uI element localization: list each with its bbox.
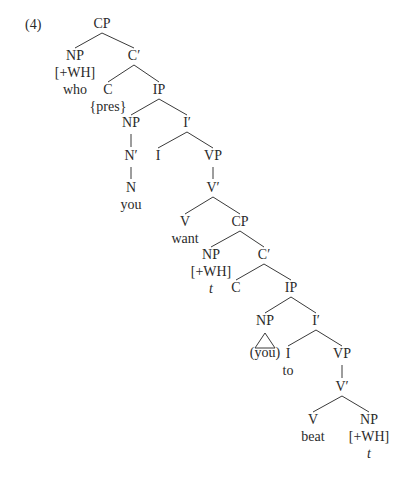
tree-node-np4: NP(you): [250, 313, 281, 361]
branch-ip2-np4: [265, 297, 291, 313]
tree-node-v2: Vbeat: [301, 412, 324, 444]
tree-node-np3: NP[+WH]t: [191, 247, 232, 296]
branch-cbar2-c2: [236, 264, 264, 280]
branch-cp1-np1: [75, 33, 102, 48]
branch-ibar1-vp1: [187, 132, 213, 148]
node-category-label: I: [286, 346, 291, 361]
branch-cbar2-ip2: [264, 264, 291, 280]
tree-node-vbar1: V′: [206, 180, 219, 195]
tree-node-cp1: CP: [93, 16, 110, 31]
branch-ibar1-i1: [158, 132, 187, 148]
node-sub-label: (you): [250, 345, 281, 361]
branch-ibar2-vp2: [316, 330, 342, 346]
node-sub-label: beat: [301, 429, 324, 444]
branch-ip1-ibar1: [159, 99, 187, 115]
tree-node-ip1: IP: [153, 82, 166, 97]
node-category-label: V: [308, 412, 318, 427]
tree-node-cp2: CP: [231, 214, 248, 229]
branch-cbar1-c1: [108, 65, 134, 82]
tree-node-ip2: IP: [285, 280, 298, 295]
tree-node-i2: Ito: [283, 346, 294, 378]
node-category-label: V′: [335, 379, 348, 394]
branch-ip1-np2: [131, 99, 159, 115]
node-category-label: N: [126, 180, 136, 195]
tree-node-ibar1: I′: [183, 115, 191, 130]
node-sub-label: [+WH]: [55, 65, 96, 80]
node-category-label: I′: [312, 313, 320, 328]
node-category-label: NP: [360, 412, 378, 427]
node-category-label: C: [103, 82, 112, 97]
node-category-label: NP: [256, 313, 274, 328]
node-category-label: C′: [258, 247, 270, 262]
example-number: (4): [25, 17, 42, 33]
node-category-label: CP: [231, 214, 248, 229]
node-category-label: VP: [204, 148, 222, 163]
branch-ibar2-i2: [288, 330, 316, 346]
tree-node-nbar1: N′: [124, 148, 137, 163]
node-sub-label: who: [63, 82, 87, 97]
trace-label: t: [209, 281, 214, 296]
node-category-label: I: [156, 148, 161, 163]
tree-node-vp1: VP: [204, 148, 222, 163]
tree-node-v1: Vwant: [171, 214, 198, 246]
tree-node-np1: NP[+WH]who: [55, 48, 96, 97]
trace-label: t: [367, 446, 372, 461]
node-sub-label: [+WH]: [191, 264, 232, 279]
branch-cp2-np3: [211, 231, 240, 247]
node-category-label: NP: [202, 247, 220, 262]
syntax-tree-diagram: (4) CPNP[+WH]whoC′C{pres}IPNPI′N′IVPNyou…: [0, 0, 405, 491]
node-sub-label: {pres}: [90, 99, 127, 114]
node-category-label: N′: [124, 148, 137, 163]
node-category-label: NP: [122, 115, 140, 130]
node-category-label: NP: [66, 48, 84, 63]
tree-node-cbar1: C′: [128, 48, 140, 63]
tree-node-np2: NP: [122, 115, 140, 130]
branch-vbar2-np5: [342, 396, 369, 412]
node-sub-label: to: [283, 363, 294, 378]
tree-node-np5: NP[+WH]t: [349, 412, 390, 461]
branch-vbar1-v1: [185, 197, 213, 214]
node-category-label: V: [180, 214, 190, 229]
node-category-label: VP: [333, 346, 351, 361]
node-sub-label: want: [171, 231, 198, 246]
node-category-label: IP: [153, 82, 166, 97]
node-category-label: CP: [93, 16, 110, 31]
node-category-label: IP: [285, 280, 298, 295]
tree-node-i1: I: [156, 148, 161, 163]
node-category-label: V′: [206, 180, 219, 195]
node-sub-label: you: [121, 197, 142, 212]
tree-node-vp2: VP: [333, 346, 351, 361]
node-category-label: C′: [128, 48, 140, 63]
tree-node-vbar2: V′: [335, 379, 348, 394]
tree-node-c2: C: [231, 280, 240, 295]
branch-cbar1-ip1: [134, 65, 159, 82]
tree-node-ibar2: I′: [312, 313, 320, 328]
tree-node-n1: Nyou: [121, 180, 142, 212]
node-sub-label: [+WH]: [349, 429, 390, 444]
node-category-label: C: [231, 280, 240, 295]
tree-nodes: CPNP[+WH]whoC′C{pres}IPNPI′N′IVPNyouV′Vw…: [55, 16, 390, 461]
branch-vbar2-v2: [313, 396, 342, 412]
branch-cp1-cbar1: [102, 33, 134, 48]
tree-node-c1: C{pres}: [90, 82, 127, 114]
tree-node-cbar2: C′: [258, 247, 270, 262]
tree-branches: [75, 33, 369, 412]
branch-ip2-ibar2: [291, 297, 316, 313]
branch-cp2-cbar2: [240, 231, 264, 247]
node-category-label: I′: [183, 115, 191, 130]
branch-vbar1-cp2: [213, 197, 240, 214]
